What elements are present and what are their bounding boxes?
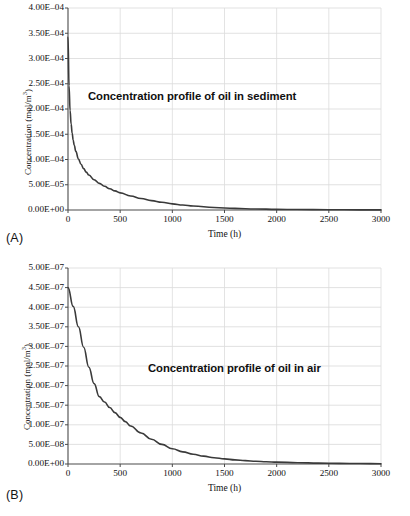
y-axis-title-a: Concentration (mol/m3) bbox=[21, 89, 33, 175]
panel-label-a: (A) bbox=[6, 231, 23, 245]
plot-area-a bbox=[0, 0, 410, 232]
x-tick-label: 1500 bbox=[205, 215, 245, 224]
x-tick-label: 3000 bbox=[361, 469, 401, 478]
x-tick-label: 0 bbox=[48, 469, 88, 478]
x-tick-label: 2500 bbox=[309, 215, 349, 224]
chart-a: 0.00E+005.00E–051.00E–041.50E–042.00E–04… bbox=[0, 0, 410, 232]
x-axis-title-b: Time (h) bbox=[165, 483, 285, 493]
x-tick-label: 2000 bbox=[257, 215, 297, 224]
x-tick-label: 1000 bbox=[152, 215, 192, 224]
chart-annotation-b: Concentration profile of oil in air bbox=[148, 362, 321, 374]
x-axis-title-a: Time (h) bbox=[165, 229, 285, 239]
x-tick-label: 2500 bbox=[309, 469, 349, 478]
x-tick-label: 500 bbox=[100, 469, 140, 478]
figure-panel-b: 0.00E+005.00E–081.00E–071.50E–072.00E–07… bbox=[0, 258, 410, 516]
panel-label-b: (B) bbox=[6, 488, 23, 502]
y-axis-title-b: Concentration (mol/m3) bbox=[20, 344, 32, 430]
x-tick-label: 1500 bbox=[205, 469, 245, 478]
x-tick-label: 3000 bbox=[361, 215, 401, 224]
x-tick-label: 0 bbox=[48, 215, 88, 224]
x-tick-label: 500 bbox=[100, 215, 140, 224]
figure-panel-a: 0.00E+005.00E–051.00E–041.50E–042.00E–04… bbox=[0, 0, 410, 258]
x-tick-label: 1000 bbox=[152, 469, 192, 478]
x-tick-label: 2000 bbox=[257, 469, 297, 478]
chart-annotation-a: Concentration profile of oil in sediment bbox=[88, 90, 296, 102]
plot-area-b bbox=[0, 258, 410, 490]
chart-b: 0.00E+005.00E–081.00E–071.50E–072.00E–07… bbox=[0, 258, 410, 490]
